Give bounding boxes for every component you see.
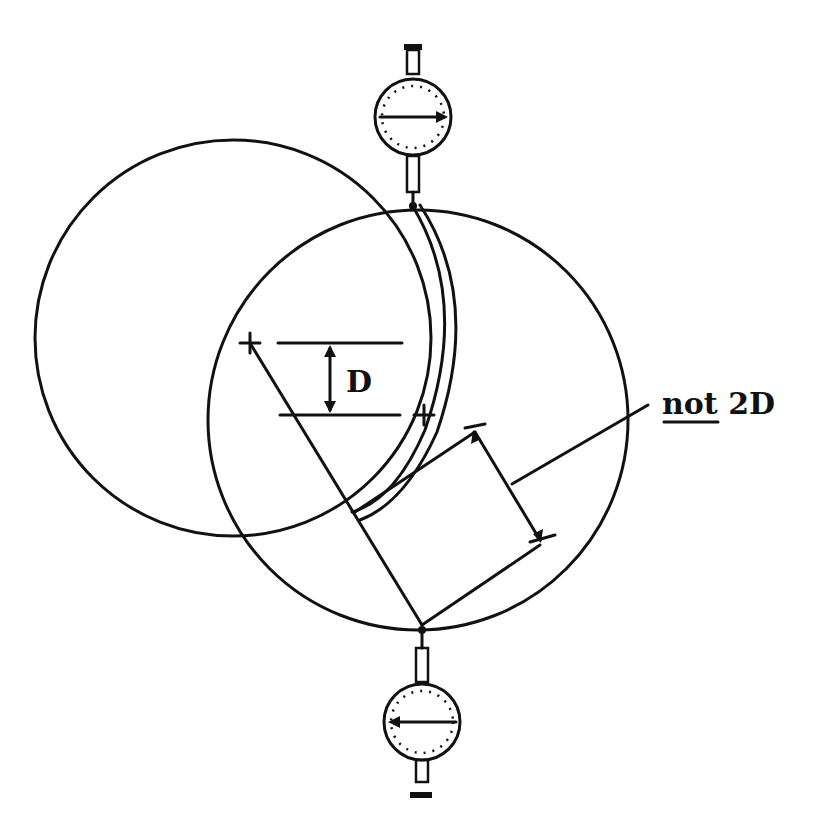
note-suffix: 2D bbox=[718, 386, 775, 421]
left-circle-outline bbox=[35, 140, 431, 536]
arrow-right-icon bbox=[436, 111, 448, 123]
not-2d-dimension bbox=[355, 424, 555, 625]
arrowhead-down-icon bbox=[324, 401, 336, 413]
bottom-dial-indicator-icon bbox=[384, 626, 460, 798]
not-2d-note: not 2D bbox=[662, 386, 775, 422]
offset-label: D bbox=[346, 364, 372, 399]
note-prefix: not bbox=[662, 386, 718, 421]
arrowhead-up-icon bbox=[324, 345, 336, 357]
svg-text:not 2D: not 2D bbox=[662, 386, 775, 421]
arrow-left-icon bbox=[388, 716, 400, 728]
dial-indicator-runout-diagram: D not 2D bbox=[0, 0, 825, 835]
offset-dimension-D: D bbox=[278, 343, 402, 415]
crescent-band bbox=[352, 205, 456, 520]
top-dial-indicator-icon bbox=[375, 44, 451, 210]
right-circle-outline bbox=[208, 210, 628, 630]
